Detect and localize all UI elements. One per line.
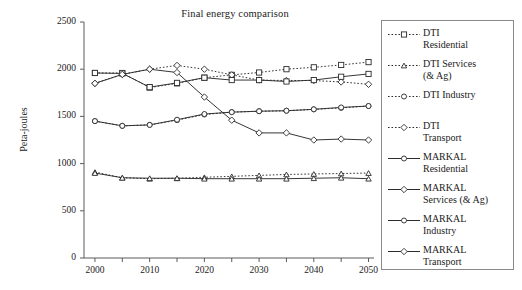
legend-marker-diamond-icon <box>387 245 421 258</box>
legend-item[interactable]: MARKALResidential <box>387 151 509 179</box>
legend-label-line1: MARKAL <box>423 151 468 163</box>
data-point-marker <box>174 62 180 68</box>
data-point-marker <box>229 110 234 115</box>
y-tick-label: 500 <box>42 205 76 215</box>
legend-label: MARKALResidential <box>421 151 468 174</box>
legend-label-line1: DTI Industry <box>423 89 476 101</box>
series-lines <box>92 60 372 182</box>
data-point-marker <box>257 109 262 114</box>
data-point-marker <box>339 105 344 110</box>
data-point-marker <box>366 71 371 76</box>
legend-item[interactable]: DTIResidential <box>387 27 509 55</box>
legend-label: DTIResidential <box>421 27 468 50</box>
data-point-marker <box>256 130 262 136</box>
legend-label-line1: MARKAL <box>423 244 466 256</box>
data-point-marker <box>256 77 261 82</box>
data-point-marker <box>146 66 152 72</box>
series-markal-industry <box>92 104 371 129</box>
legend-marker-circle-small-icon <box>387 90 421 103</box>
data-point-marker <box>311 137 317 143</box>
data-point-marker <box>365 137 371 143</box>
data-point-marker <box>283 130 289 136</box>
legend-marker-diamond-icon <box>387 183 421 196</box>
data-point-marker <box>229 77 234 82</box>
legend-marker-diamond-icon <box>387 121 421 134</box>
x-tick-label: 2040 <box>294 265 334 275</box>
data-point-marker <box>366 104 371 109</box>
data-point-marker <box>92 119 97 124</box>
legend-label-line2: Industry <box>423 225 466 237</box>
y-tick-label: 1000 <box>42 158 76 168</box>
legend-item[interactable]: MARKALServices (& Ag) <box>387 182 509 210</box>
legend-label: MARKALIndustry <box>421 213 466 236</box>
legend-label-line1: DTI <box>423 27 468 39</box>
legend-label: MARKALServices (& Ag) <box>421 182 488 205</box>
x-tick-label: 2020 <box>184 265 224 275</box>
legend-label: DTI Services(& Ag) <box>421 58 476 81</box>
data-point-marker <box>92 70 97 75</box>
legend-label-line1: MARKAL <box>423 182 488 194</box>
series-dti-transport <box>92 62 372 87</box>
data-point-marker <box>284 108 289 113</box>
series-dti-industry <box>92 104 371 129</box>
y-tick-label: 1500 <box>42 110 76 120</box>
data-point-marker <box>284 79 289 84</box>
legend-label-line2: Transport <box>423 256 466 268</box>
axes <box>80 22 374 262</box>
legend-marker-circle-small-icon <box>387 152 421 165</box>
data-point-marker <box>311 65 316 70</box>
legend-label-line2: Residential <box>423 39 468 51</box>
legend-marker-square-icon <box>387 28 421 41</box>
data-point-marker <box>174 80 179 85</box>
legend-label-line1: DTI Services <box>423 58 476 70</box>
y-axis-label: Peta-joules <box>18 85 29 175</box>
legend-label-line2: Services (& Ag) <box>423 194 488 206</box>
data-point-marker <box>147 85 152 90</box>
y-tick-label: 2500 <box>42 16 76 26</box>
data-point-marker <box>339 62 344 67</box>
legend-label-line1: DTI <box>423 120 462 132</box>
series-markal-services-ag <box>92 171 371 181</box>
data-point-marker <box>175 117 180 122</box>
data-point-marker <box>338 136 344 142</box>
legend-item[interactable]: MARKALIndustry <box>387 213 509 241</box>
data-point-marker <box>202 75 207 80</box>
data-point-marker <box>256 70 261 75</box>
data-point-marker <box>284 67 289 72</box>
legend-marker-circle-small-icon <box>387 214 421 227</box>
x-tick-label: 2010 <box>130 265 170 275</box>
chart-figure: Final energy comparison Peta-joules 0500… <box>0 0 522 290</box>
data-point-marker <box>92 80 98 86</box>
legend-marker-triangle-icon <box>387 59 421 72</box>
data-point-marker <box>366 171 371 176</box>
legend-label-line2: Residential <box>423 163 468 175</box>
y-tick-label: 0 <box>42 252 76 262</box>
legend-item[interactable]: DTITransport <box>387 120 509 148</box>
data-point-marker <box>311 107 316 112</box>
data-point-marker <box>120 123 125 128</box>
legend-label: DTITransport <box>421 120 462 143</box>
y-tick-label: 2000 <box>42 63 76 73</box>
data-point-marker <box>311 77 316 82</box>
data-point-marker <box>147 122 152 127</box>
legend-label-line1: MARKAL <box>423 213 466 225</box>
data-point-marker <box>201 66 207 72</box>
data-point-marker <box>202 112 207 117</box>
legend-label: MARKALTransport <box>421 244 466 267</box>
x-tick-label: 2030 <box>239 265 279 275</box>
legend-item[interactable]: DTI Services(& Ag) <box>387 58 509 86</box>
legend-label: DTI Industry <box>421 89 476 101</box>
data-point-marker <box>366 60 371 65</box>
chart-legend: DTIResidentialDTI Services(& Ag)DTI Indu… <box>381 20 514 270</box>
data-point-marker <box>339 74 344 79</box>
legend-item[interactable]: MARKALTransport <box>387 244 509 272</box>
chart-title: Final energy comparison <box>140 8 330 19</box>
legend-label-line2: (& Ag) <box>423 70 476 82</box>
legend-label-line2: Transport <box>423 132 462 144</box>
x-tick-label: 2000 <box>75 265 115 275</box>
legend-item[interactable]: DTI Industry <box>387 89 509 117</box>
data-point-marker <box>365 81 371 87</box>
